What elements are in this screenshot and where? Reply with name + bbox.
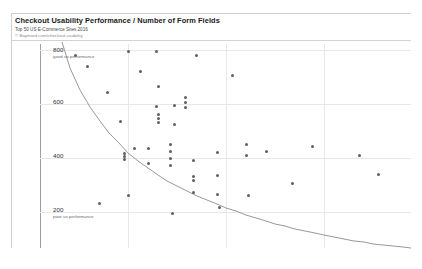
page-title: Checkout Usability Performance / Number … — [15, 16, 345, 26]
y-annotation-good: good ux performance — [53, 53, 95, 60]
data-point — [192, 191, 195, 194]
data-point — [169, 157, 172, 160]
data-point — [291, 182, 294, 185]
data-point — [157, 113, 160, 116]
data-point — [216, 151, 219, 154]
data-point — [184, 106, 187, 109]
y-axis-label-600: 600 — [53, 98, 63, 105]
data-point — [377, 173, 380, 176]
data-point — [155, 105, 158, 108]
data-point — [245, 154, 248, 157]
y-axis-label-800: 800 good ux performance — [53, 46, 95, 60]
chart-container: Checkout Usability Performance / Number … — [0, 0, 422, 269]
trendline — [40, 44, 411, 248]
data-point — [157, 85, 160, 88]
data-point — [216, 193, 219, 196]
data-point — [171, 212, 174, 215]
data-point — [106, 91, 109, 94]
data-point — [147, 147, 150, 150]
y-tick-value-400: 400 — [53, 152, 63, 159]
header-divider — [11, 40, 411, 41]
data-point — [133, 147, 136, 150]
data-point — [311, 145, 314, 148]
chart-source: © Baymard.com/checkout-usability — [15, 33, 345, 39]
data-point — [123, 158, 126, 161]
data-point — [157, 121, 160, 124]
data-point — [173, 123, 176, 126]
data-point — [192, 159, 195, 162]
data-point — [169, 150, 172, 153]
data-point — [247, 194, 250, 197]
data-point — [169, 143, 172, 146]
data-point — [245, 143, 248, 146]
data-point — [169, 164, 172, 167]
y-axis-label-200: 200 poor ux performance — [53, 206, 94, 220]
data-point — [98, 202, 101, 205]
y-annotation-poor: poor ux performance — [53, 213, 94, 220]
data-point — [139, 70, 142, 73]
plot-area: 800 good ux performance 600 400 200 poor… — [40, 44, 411, 248]
data-point — [358, 154, 361, 157]
data-point — [195, 54, 198, 57]
data-point — [265, 150, 268, 153]
chart-header: Checkout Usability Performance / Number … — [15, 16, 345, 39]
data-point — [86, 65, 89, 68]
data-point — [127, 194, 130, 197]
y-axis-label-400: 400 — [53, 152, 63, 159]
data-point — [192, 175, 195, 178]
data-point — [184, 96, 187, 99]
data-point — [218, 206, 221, 209]
data-point — [119, 120, 122, 123]
data-point — [127, 50, 130, 53]
data-point — [184, 101, 187, 104]
data-point — [155, 50, 158, 53]
data-point — [231, 74, 234, 77]
data-point — [192, 179, 195, 182]
data-point — [216, 174, 219, 177]
data-point — [147, 162, 150, 165]
y-tick-value-600: 600 — [53, 98, 63, 105]
data-point — [173, 104, 176, 107]
data-point — [157, 117, 160, 120]
